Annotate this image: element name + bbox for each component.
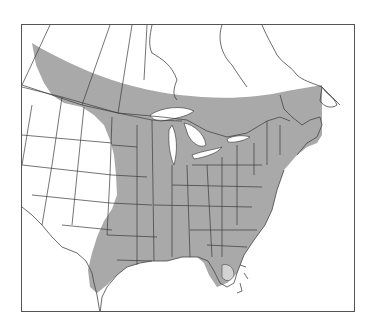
newfoundland <box>320 87 337 107</box>
hudson-bay <box>150 25 247 100</box>
range-map <box>22 25 355 312</box>
gulf-coast-mexico <box>22 207 100 312</box>
map-frame: Species range map <box>21 24 355 312</box>
